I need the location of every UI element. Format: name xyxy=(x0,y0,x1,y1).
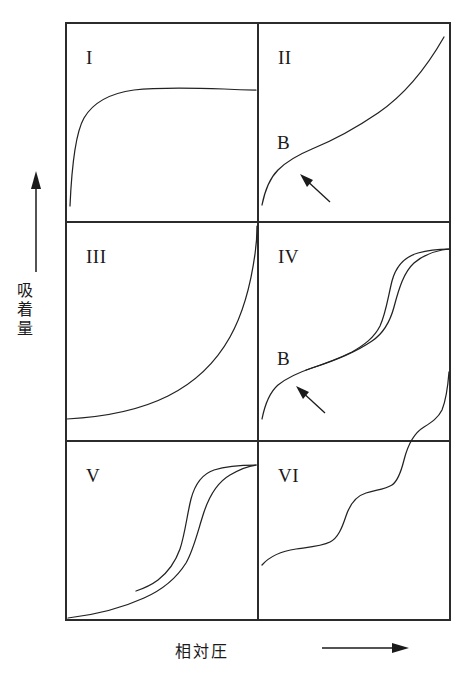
isotherm-curve-IV-adsorption xyxy=(262,249,449,419)
isotherm-curve-I xyxy=(70,88,256,206)
right-arrow-icon xyxy=(392,643,409,653)
isotherm-curve-IV-desorption xyxy=(306,249,449,370)
isotherm-curve-V-adsorption xyxy=(68,465,256,618)
isotherm-curve-V-desorption xyxy=(136,465,256,591)
panel-label-VI: VI xyxy=(278,465,299,486)
isotherm-figure-canvas: I II B III IV B xyxy=(0,0,466,681)
x-axis-title: 相対圧 xyxy=(137,638,267,662)
x-axis-arrow xyxy=(322,643,409,653)
y-axis-title-char-2: 着 xyxy=(12,300,38,319)
panel-label-IV: IV xyxy=(278,246,299,267)
up-arrow-icon xyxy=(31,171,41,189)
isotherm-figure: I II B III IV B xyxy=(0,0,466,681)
panel-label-II: II xyxy=(278,47,292,68)
y-axis-arrow xyxy=(31,171,41,272)
panel-label-V: V xyxy=(86,465,100,486)
panel-IV: IV B xyxy=(262,246,449,419)
panel-label-III: III xyxy=(86,246,106,267)
panel-VI: VI xyxy=(262,372,449,565)
panel-I: I xyxy=(70,47,256,206)
panel-V: V xyxy=(68,465,256,618)
y-axis-title: 吸 着 量 xyxy=(12,281,38,338)
annotation-label-B-panel-IV: B xyxy=(277,348,290,369)
panel-II: II B xyxy=(262,37,444,205)
panel-III: III xyxy=(67,226,257,419)
annotation-label-B-panel-II: B xyxy=(277,132,290,153)
y-axis-title-char-1: 吸 xyxy=(12,281,38,300)
panel-label-I: I xyxy=(86,47,93,68)
y-axis-title-char-3: 量 xyxy=(12,319,38,338)
